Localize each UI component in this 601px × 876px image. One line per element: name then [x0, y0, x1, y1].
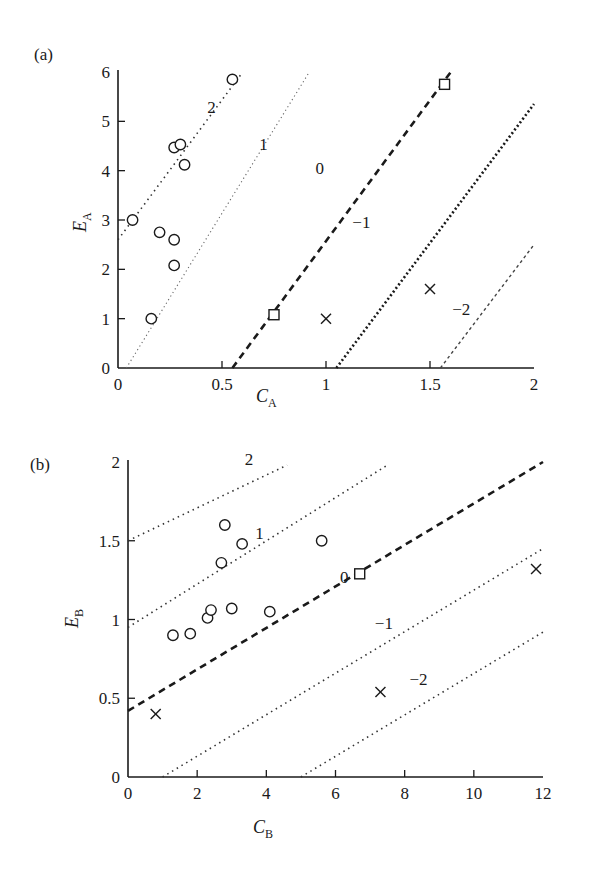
panel-a-label: (a)	[34, 45, 53, 64]
x-tick-label: 10	[465, 784, 482, 803]
panel-b-label: (b)	[30, 455, 50, 474]
x-tick-label: 8	[400, 784, 409, 803]
cross-marker	[151, 709, 161, 719]
square-marker	[355, 569, 365, 579]
x-tick-label: 12	[535, 784, 552, 803]
circle-marker	[265, 606, 275, 616]
y-tick-label: 0	[102, 359, 111, 378]
reference-line-label: 0	[316, 159, 325, 178]
cross-marker	[531, 564, 541, 574]
x-tick-label: 0	[114, 375, 123, 394]
square-marker	[440, 79, 450, 89]
reference-line	[336, 104, 534, 368]
y-tick-label: 2	[102, 260, 111, 279]
panel-b-reference-lines: 210−1−2	[128, 450, 543, 777]
circle-marker	[175, 139, 185, 149]
reference-line	[301, 632, 543, 777]
panel-b-axes: 02468101200.511.52	[99, 453, 552, 803]
cross-marker	[375, 687, 385, 697]
panel-a-axes: 00.511.520123456	[102, 63, 539, 394]
panel-a-x-axis-label: CA	[256, 386, 277, 410]
y-tick-label: 0.5	[99, 689, 120, 708]
circle-marker	[206, 605, 216, 615]
y-tick-label: 1.5	[99, 532, 120, 551]
reference-line	[163, 549, 543, 777]
panel-b-data-points	[151, 520, 541, 719]
circle-marker	[237, 539, 247, 549]
reference-line	[128, 462, 543, 711]
panel-a-y-axis-label: EA	[70, 212, 94, 233]
y-tick-label: 5	[102, 112, 111, 131]
reference-line	[118, 72, 243, 240]
reference-line-label: −2	[452, 300, 470, 319]
panel-a-reference-lines: 210−1−2	[118, 72, 534, 368]
circle-marker	[168, 630, 178, 640]
x-tick-label: 2	[193, 784, 202, 803]
circle-marker	[227, 603, 237, 613]
panel-b-chart: (b) 02468101200.511.52 210−1−2 CB EB	[30, 450, 552, 841]
panel-a-chart: (a) 00.511.520123456 210−1−2 CA EA	[34, 45, 538, 410]
reference-line-label: 0	[340, 568, 349, 587]
x-tick-label: 1.5	[419, 375, 440, 394]
reference-line	[232, 72, 450, 368]
y-tick-label: 4	[102, 162, 111, 181]
circle-marker	[220, 520, 230, 530]
reference-line-label: 1	[255, 524, 264, 543]
circle-marker	[316, 536, 326, 546]
circle-marker	[185, 628, 195, 638]
x-tick-label: 0	[124, 784, 133, 803]
circle-marker	[146, 313, 156, 323]
reference-line-label: 2	[245, 450, 254, 469]
panel-a-data-points	[127, 74, 449, 324]
panel-b-y-axis-label: EB	[62, 609, 86, 629]
y-tick-label: 1	[102, 310, 111, 329]
circle-marker	[216, 558, 226, 568]
square-marker	[269, 310, 279, 320]
panel-b-x-axis-label: CB	[253, 817, 273, 841]
reference-line-label: −1	[375, 614, 393, 633]
x-tick-label: 4	[262, 784, 271, 803]
y-tick-label: 2	[112, 453, 121, 472]
figure: (a) 00.511.520123456 210−1−2 CA EA (b) 0…	[0, 0, 601, 876]
cross-marker	[321, 314, 331, 324]
reference-line-label: 1	[259, 135, 268, 154]
y-tick-label: 0	[112, 768, 121, 787]
circle-marker	[127, 215, 137, 225]
circle-marker	[154, 227, 164, 237]
x-tick-label: 6	[331, 784, 340, 803]
reference-line-label: −1	[352, 213, 370, 232]
reference-line	[128, 465, 387, 627]
circle-marker	[169, 260, 179, 270]
x-tick-label: 0.5	[211, 375, 232, 394]
reference-line-label: −2	[409, 670, 427, 689]
y-tick-label: 3	[102, 211, 111, 230]
circle-marker	[169, 235, 179, 245]
cross-marker	[425, 284, 435, 294]
x-tick-label: 2	[530, 375, 539, 394]
x-tick-label: 1	[322, 375, 331, 394]
y-tick-label: 1	[112, 611, 121, 630]
circle-marker	[179, 160, 189, 170]
reference-line-label: 2	[207, 98, 216, 117]
y-tick-label: 6	[102, 63, 111, 82]
circle-marker	[227, 74, 237, 84]
